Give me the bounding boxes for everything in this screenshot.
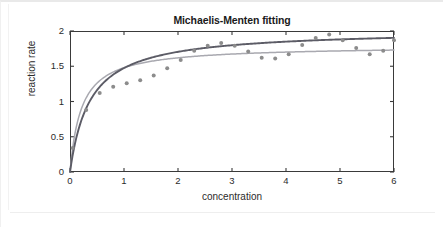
scatter-point [138,78,142,82]
scatter-point [125,81,129,85]
chart-figure: Michaelis-Menten fitting 0123456 00.511.… [0,0,443,227]
x-tick-label: 1 [109,175,139,186]
scatter-point [381,49,385,53]
scatter-point [98,91,102,95]
scatter-point [192,49,196,53]
scatter-point [368,52,372,56]
scatter-point [287,52,291,56]
y-axis-label: reaction rate [26,9,37,129]
x-tick-label: 4 [271,175,301,186]
scatter-point [152,73,156,77]
scatter-point [179,58,183,62]
x-tick-label: 3 [217,175,247,186]
scatter-point [219,41,223,45]
scatter-point [206,44,210,48]
scatter-point [327,33,331,37]
x-tick-label: 6 [379,175,409,186]
scatter-point [273,56,277,60]
x-tick-label: 2 [163,175,193,186]
y-tick-label: 2 [40,25,64,36]
fit-curve-dark-path [70,38,394,172]
scatter-point [341,38,345,42]
scatter-point [300,43,304,47]
scatter-point [260,56,264,60]
michaelis-menten-chart: Michaelis-Menten fitting 0123456 00.511.… [0,0,443,227]
fit-curve-light-path [70,50,394,172]
scatter-point [84,108,88,112]
y-tick-label: 1 [40,96,64,107]
x-axis-label: concentration [70,191,394,202]
scatter-point [314,36,318,40]
y-tick-label: 0 [40,166,64,177]
scatter-point [392,38,396,42]
y-tick-label: 1.5 [40,60,64,71]
x-tick-label: 5 [325,175,355,186]
scatter-point [165,66,169,70]
scatter-point [354,46,358,50]
scatter-point [246,49,250,53]
axis-ticks [70,31,394,172]
scatter-point [71,146,75,150]
scatter-point [233,44,237,48]
scatter-point [111,85,115,89]
y-tick-label: 0.5 [40,131,64,142]
